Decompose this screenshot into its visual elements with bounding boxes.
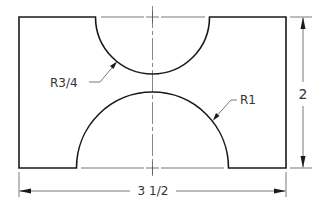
leader-arrow-icon: [110, 62, 117, 70]
r1-label: R1: [240, 93, 256, 107]
top-center-mark: [146, 11, 159, 23]
r1-leader: R1: [213, 93, 256, 121]
arrow-left-icon: [19, 189, 31, 194]
arrow-up-icon: [301, 17, 306, 29]
bottom-center-mark: [146, 162, 159, 174]
arrow-right-icon: [274, 189, 286, 194]
height-dimension: 2: [290, 17, 312, 168]
height-dimension-label: 2: [299, 86, 308, 102]
r34-label: R3/4: [50, 76, 78, 90]
technical-drawing: 3 1/2 2 R3/4 R1: [0, 0, 321, 208]
width-dimension-label: 3 1/2: [138, 184, 169, 198]
arrow-down-icon: [301, 156, 306, 168]
r34-leader: R3/4: [50, 62, 117, 91]
